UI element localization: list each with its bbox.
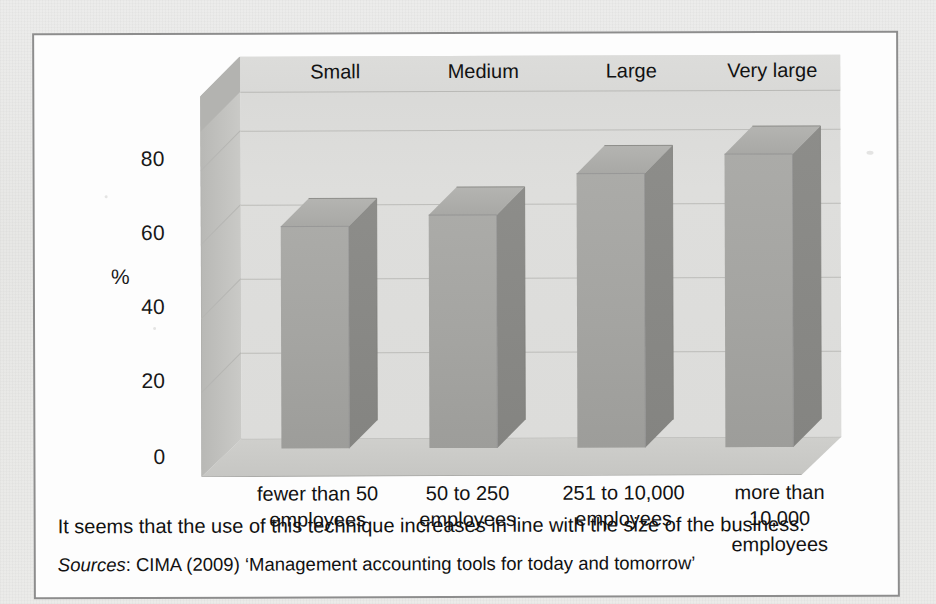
y-tick-label-60: 60 [123,221,165,245]
y-tick-label-20: 20 [123,369,165,393]
figure-caption: It seems that the use of this technique … [58,512,878,539]
chart-3d-scene: Small Medium Large Very large [200,55,841,477]
y-tick-label-0: 0 [123,445,165,469]
bar-group [200,55,841,477]
bar-very-large [724,126,821,447]
sources-text: : CIMA (2009) ‘Management accounting too… [126,552,696,575]
y-tick-label-40: 40 [123,295,165,319]
bar-small [281,198,378,448]
bar-medium [429,187,526,448]
scan-speck [866,151,873,155]
y-axis-title: % [111,265,130,289]
scan-speck [153,327,156,330]
sources-label: Sources [58,554,126,575]
figure-sources: Sources: CIMA (2009) ‘Management account… [58,551,878,577]
scan-speck [105,195,108,198]
bar-large [576,145,673,447]
figure-box: 80 60 40 20 0 % [32,31,900,600]
bar-chart: 80 60 40 20 0 % [34,33,897,506]
y-tick-label-80: 80 [122,147,164,171]
